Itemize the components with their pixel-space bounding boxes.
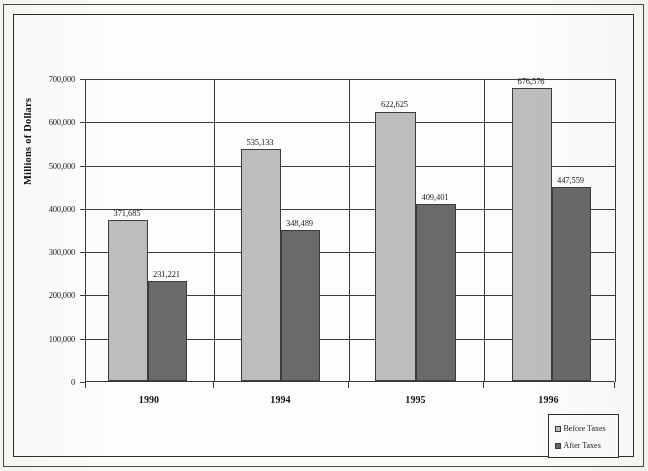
group-separator-line bbox=[214, 79, 215, 382]
y-axis-tick-label: 600,000 bbox=[0, 117, 75, 127]
bar-value-label: 371,685 bbox=[93, 208, 161, 218]
group-separator-line bbox=[349, 79, 350, 382]
y-axis-tick-label: 300,000 bbox=[0, 247, 75, 257]
y-axis-tick-label: 200,000 bbox=[0, 290, 75, 300]
bar-1995-after-taxes bbox=[416, 204, 456, 381]
legend-swatch-before-taxes-icon bbox=[555, 426, 561, 432]
bar-1994-before-taxes bbox=[241, 149, 281, 381]
bar-value-label: 348,489 bbox=[266, 218, 333, 228]
bar-1996-after-taxes bbox=[552, 187, 591, 381]
y-axis-tick-mark bbox=[80, 122, 86, 123]
y-axis-tick-label: 400,000 bbox=[0, 204, 75, 214]
bar-1990-before-taxes bbox=[108, 220, 148, 381]
bar-1994-after-taxes bbox=[281, 230, 320, 381]
bar-value-label: 676,576 bbox=[497, 76, 565, 86]
x-axis-category-label-1990: 1990 bbox=[85, 394, 213, 405]
y-axis-tick-mark bbox=[80, 166, 86, 167]
legend-item-before-taxes: Before Taxes bbox=[555, 420, 618, 437]
bar-1990-after-taxes bbox=[148, 281, 187, 381]
group-separator-line bbox=[615, 79, 616, 382]
x-axis-tick-mark bbox=[348, 382, 349, 388]
y-axis-tick-label: 0 bbox=[0, 377, 75, 387]
y-axis-tick-label: 500,000 bbox=[0, 161, 75, 171]
x-axis-tick-mark bbox=[213, 382, 214, 388]
bar-value-label: 409,401 bbox=[401, 192, 469, 202]
x-axis-tick-mark bbox=[614, 382, 615, 388]
x-axis-category-label-1996: 1996 bbox=[483, 394, 614, 405]
x-axis-category-label-1994: 1994 bbox=[213, 394, 348, 405]
bar-1996-before-taxes bbox=[512, 88, 552, 381]
legend-label-before-taxes: Before Taxes bbox=[564, 424, 606, 433]
bar-value-label: 447,559 bbox=[537, 175, 604, 185]
bar-chart: Millions of Dollars 0100,000200,000300,0… bbox=[0, 0, 648, 471]
x-axis-tick-mark bbox=[483, 382, 484, 388]
y-axis-tick-mark bbox=[80, 295, 86, 296]
plot-area bbox=[85, 79, 614, 382]
bar-value-label: 231,221 bbox=[133, 269, 200, 279]
y-axis-tick-mark bbox=[80, 79, 86, 80]
y-axis-tick-label: 700,000 bbox=[0, 74, 75, 84]
chart-legend: Before Taxes After Taxes bbox=[548, 414, 619, 458]
y-axis-tick-label: 100,000 bbox=[0, 334, 75, 344]
y-axis-tick-mark bbox=[80, 252, 86, 253]
bar-value-label: 535,133 bbox=[226, 137, 294, 147]
x-axis-category-label-1995: 1995 bbox=[348, 394, 483, 405]
legend-item-after-taxes: After Taxes bbox=[555, 437, 618, 454]
legend-label-after-taxes: After Taxes bbox=[564, 441, 601, 450]
legend-swatch-after-taxes-icon bbox=[555, 443, 561, 449]
y-axis-tick-mark bbox=[80, 339, 86, 340]
bar-1995-before-taxes bbox=[375, 112, 416, 382]
x-axis-tick-mark bbox=[85, 382, 86, 388]
bar-value-label: 622,625 bbox=[360, 99, 429, 109]
group-separator-line bbox=[484, 79, 485, 382]
y-axis-tick-mark bbox=[80, 209, 86, 210]
